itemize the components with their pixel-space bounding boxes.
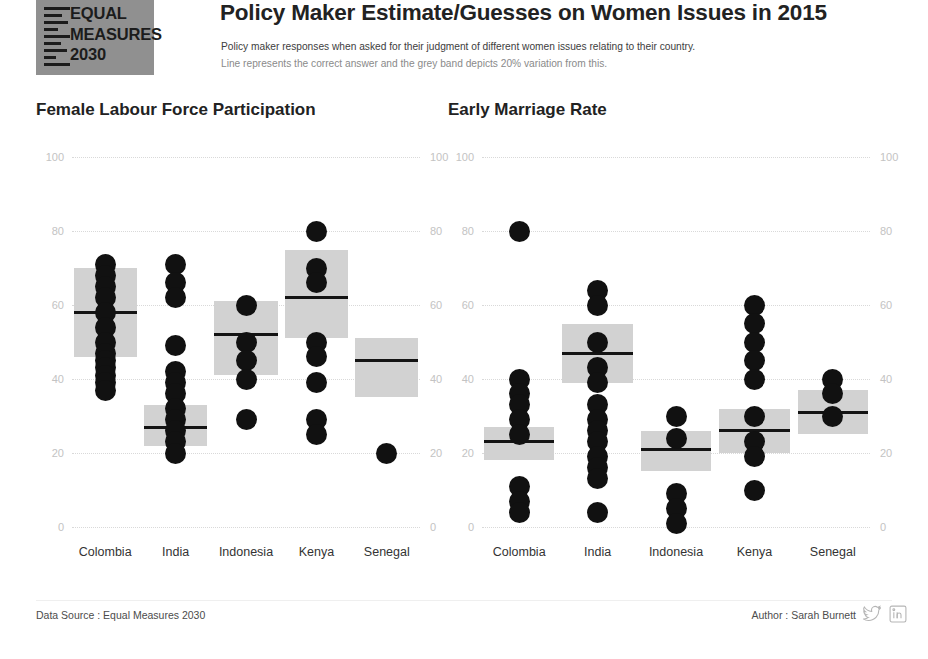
- y-axis-tick-label: 100: [446, 152, 474, 163]
- chart-title: Female Labour Force Participation: [36, 100, 316, 120]
- twitter-bird-icon[interactable]: [862, 604, 882, 624]
- logo-text: EQUAL MEASURES 2030: [70, 3, 162, 65]
- y-axis-tick-label: 40: [36, 374, 64, 385]
- logo-line-1: EQUAL: [70, 3, 162, 24]
- data-point[interactable]: [236, 295, 257, 316]
- y-axis-tick-label: 100: [880, 152, 908, 163]
- x-axis-label-india: India: [558, 545, 636, 559]
- y-axis-tick-label: 80: [446, 226, 474, 237]
- data-point[interactable]: [306, 424, 327, 445]
- x-axis-label-india: India: [140, 545, 210, 559]
- y-axis-tick-label: 60: [36, 300, 64, 311]
- correct-answer-line: [355, 359, 418, 362]
- page-title: Policy Maker Estimate/Guesses on Women I…: [220, 0, 827, 26]
- data-point[interactable]: [165, 443, 186, 464]
- data-point[interactable]: [306, 372, 327, 393]
- gridline: [482, 379, 870, 380]
- y-axis-tick-label: 0: [880, 522, 908, 533]
- data-point[interactable]: [666, 513, 687, 534]
- y-axis-tick-label: 60: [446, 300, 474, 311]
- chart-panel-female-labour-force-participation: Female Labour Force Participation 002020…: [36, 100, 456, 570]
- data-point[interactable]: [306, 221, 327, 242]
- data-point[interactable]: [587, 372, 608, 393]
- gridline: [482, 157, 870, 158]
- author-label: Author : Sarah Burnett: [752, 609, 856, 621]
- gridline: [482, 231, 870, 232]
- chart-panel-early-marriage-rate: Early Marriage Rate 00202040406060808010…: [446, 100, 906, 570]
- data-point[interactable]: [666, 406, 687, 427]
- data-point[interactable]: [236, 369, 257, 390]
- y-axis-tick-label: 60: [880, 300, 908, 311]
- logo-line-2: MEASURES: [70, 24, 162, 45]
- data-point[interactable]: [509, 502, 530, 523]
- data-source-label: Data Source : Equal Measures 2030: [36, 609, 205, 621]
- data-point[interactable]: [376, 443, 397, 464]
- data-point[interactable]: [822, 406, 843, 427]
- y-axis-tick-label: 40: [880, 374, 908, 385]
- plot-area: 002020404060608080100100ColombiaIndiaInd…: [446, 142, 906, 542]
- y-axis-tick-label: 20: [36, 448, 64, 459]
- data-point[interactable]: [744, 446, 765, 467]
- data-point[interactable]: [666, 428, 687, 449]
- variation-band: [355, 338, 418, 397]
- data-point[interactable]: [744, 350, 765, 371]
- y-axis-tick-label: 0: [446, 522, 474, 533]
- chart-title: Early Marriage Rate: [448, 100, 607, 120]
- data-point[interactable]: [587, 468, 608, 489]
- gridline: [482, 305, 870, 306]
- subtitle-line-2: Line represents the correct answer and t…: [221, 58, 607, 69]
- x-axis-label-kenya: Kenya: [281, 545, 351, 559]
- correct-answer-line: [285, 296, 348, 299]
- subtitle-line-1: Policy maker responses when asked for th…: [221, 41, 695, 52]
- gridline: [72, 453, 420, 454]
- data-point[interactable]: [587, 295, 608, 316]
- x-axis-label-colombia: Colombia: [70, 545, 140, 559]
- y-axis-tick-label: 80: [880, 226, 908, 237]
- footer: Data Source : Equal Measures 2030 Author…: [0, 600, 928, 640]
- data-point[interactable]: [744, 313, 765, 334]
- data-point[interactable]: [744, 369, 765, 390]
- data-point[interactable]: [236, 409, 257, 430]
- logo-line-3: 2030: [70, 44, 162, 65]
- data-point[interactable]: [165, 335, 186, 356]
- data-point[interactable]: [744, 480, 765, 501]
- x-axis-label-senegal: Senegal: [352, 545, 422, 559]
- y-axis-tick-label: 40: [446, 374, 474, 385]
- data-point[interactable]: [95, 380, 116, 401]
- x-axis-label-senegal: Senegal: [794, 545, 872, 559]
- gridline: [72, 231, 420, 232]
- gridline: [72, 157, 420, 158]
- x-axis-label-indonesia: Indonesia: [211, 545, 281, 559]
- y-axis-tick-label: 20: [446, 448, 474, 459]
- equal-measures-2030-logo: EQUAL MEASURES 2030: [36, 0, 154, 75]
- data-point[interactable]: [744, 406, 765, 427]
- data-point[interactable]: [587, 332, 608, 353]
- plot-area: 002020404060608080100100ColombiaIndiaInd…: [36, 142, 456, 542]
- footer-divider: [36, 600, 892, 601]
- data-point[interactable]: [509, 424, 530, 445]
- x-axis-label-indonesia: Indonesia: [637, 545, 715, 559]
- y-axis-tick-label: 20: [880, 448, 908, 459]
- data-point[interactable]: [306, 346, 327, 367]
- y-axis-tick-label: 80: [36, 226, 64, 237]
- linkedin-icon[interactable]: [888, 604, 908, 624]
- gridline: [72, 527, 420, 528]
- data-point[interactable]: [236, 350, 257, 371]
- data-point[interactable]: [509, 221, 530, 242]
- x-axis-label-colombia: Colombia: [480, 545, 558, 559]
- x-axis-label-kenya: Kenya: [715, 545, 793, 559]
- y-axis-tick-label: 0: [36, 522, 64, 533]
- logo-bars-icon: [44, 7, 70, 69]
- data-point[interactable]: [587, 502, 608, 523]
- header: EQUAL MEASURES 2030 Policy Maker Estimat…: [0, 0, 928, 92]
- y-axis-tick-label: 100: [36, 152, 64, 163]
